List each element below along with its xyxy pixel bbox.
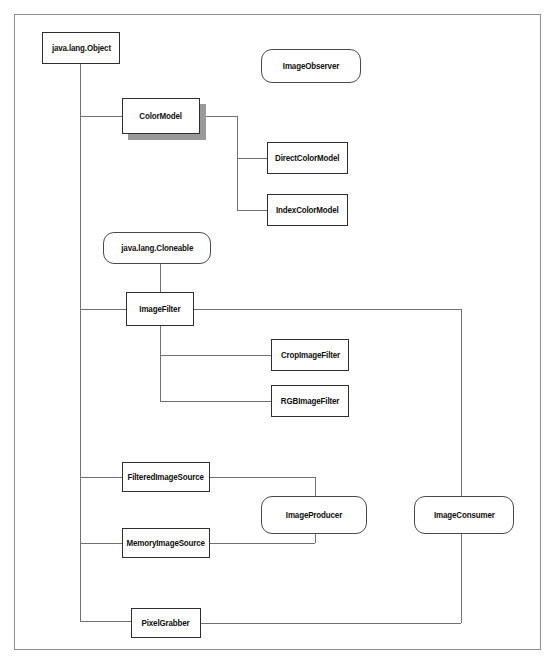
node-imageproducer[interactable]: ImageProducer	[261, 496, 367, 534]
node-label-colormodel: ColorModel	[140, 112, 183, 121]
node-label-directcolormodel: DirectColorModel	[275, 154, 339, 163]
node-colormodel[interactable]: ColorModel	[122, 98, 200, 134]
node-directcolormodel[interactable]: DirectColorModel	[267, 142, 348, 174]
node-label-imageconsumer: ImageConsumer	[434, 511, 495, 520]
node-indexcolormodel[interactable]: IndexColorModel	[267, 194, 348, 226]
node-label-indexcolormodel: IndexColorModel	[276, 206, 339, 215]
node-object[interactable]: java.lang.Object	[42, 32, 120, 64]
node-label-cloneable: java.lang.Cloneable	[121, 244, 193, 253]
node-memoryimagesrc[interactable]: MemoryImageSource	[122, 528, 210, 558]
node-imagefilter[interactable]: ImageFilter	[126, 292, 194, 326]
node-pixelgrabber[interactable]: PixelGrabber	[131, 608, 201, 638]
node-label-pixelgrabber: PixelGrabber	[142, 619, 190, 628]
node-label-memoryimagesrc: MemoryImageSource	[127, 539, 205, 548]
node-label-rgbimagefilter: RGBImageFilter	[281, 397, 339, 406]
node-rgbimagefilter[interactable]: RGBImageFilter	[271, 385, 349, 417]
diagram-canvas: java.lang.ObjectImageObserverColorModelD…	[0, 0, 560, 668]
node-label-imagefilter: ImageFilter	[139, 305, 180, 314]
node-label-filteredimagesrc: FilteredImageSource	[128, 473, 204, 482]
node-imageobserver[interactable]: ImageObserver	[261, 49, 361, 83]
node-label-imageproducer: ImageProducer	[286, 511, 342, 520]
node-label-imageobserver: ImageObserver	[283, 62, 339, 71]
node-filteredimagesrc[interactable]: FilteredImageSource	[122, 462, 210, 492]
node-cropimagefilter[interactable]: CropImageFilter	[271, 339, 349, 371]
node-label-object: java.lang.Object	[51, 44, 110, 53]
node-cloneable[interactable]: java.lang.Cloneable	[103, 232, 211, 264]
node-label-cropimagefilter: CropImageFilter	[280, 351, 339, 360]
diagram-page-frame	[14, 14, 541, 650]
node-imageconsumer[interactable]: ImageConsumer	[414, 496, 514, 534]
